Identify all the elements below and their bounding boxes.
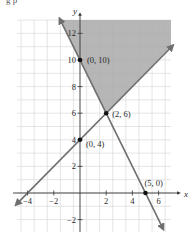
svg-text:12: 12 <box>68 28 77 38</box>
svg-text:2: 2 <box>72 161 76 171</box>
svg-text:6: 6 <box>72 108 76 118</box>
svg-text:4: 4 <box>130 196 135 206</box>
svg-text:(0, 4): (0, 4) <box>86 139 105 149</box>
svg-text:(0, 10): (0, 10) <box>87 55 110 65</box>
svg-text:6: 6 <box>156 196 160 206</box>
svg-text:(5, 0): (5, 0) <box>145 178 164 188</box>
svg-text:y: y <box>72 6 77 16</box>
svg-text:−2: −2 <box>49 196 58 206</box>
svg-text:8: 8 <box>72 82 76 92</box>
svg-text:−2: −2 <box>67 215 76 225</box>
svg-text:2: 2 <box>104 196 108 206</box>
svg-text:(2, 6): (2, 6) <box>112 109 131 119</box>
svg-text:x: x <box>183 189 188 199</box>
svg-text:−4: −4 <box>23 196 33 206</box>
shaded-feasible-region <box>60 20 171 113</box>
svg-text:10: 10 <box>68 55 77 65</box>
linear-inequality-graph: xy −4−2246−224681012 (0, 10)(2, 6)(0, 4)… <box>0 0 194 243</box>
